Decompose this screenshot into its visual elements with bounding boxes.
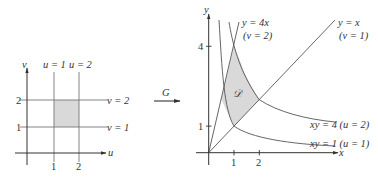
label-v-1: (v = 1) bbox=[339, 30, 369, 42]
label-xy-4: xy = 4 (u = 2) bbox=[309, 119, 370, 131]
x-tick-1: 1 bbox=[231, 157, 236, 168]
figure-canvas: v u 1 2 2 1 u = 1 u = 2 v = 2 v = 1 G bbox=[0, 0, 378, 178]
u-tick-1: 1 bbox=[51, 161, 56, 172]
mapping-arrow: G bbox=[154, 87, 180, 101]
v2-label: v = 2 bbox=[107, 95, 130, 106]
xy-plane: y x 1 2 1 4 𝒟 y = 4x (v = 2) y = x (v = … bbox=[196, 4, 370, 168]
region-d bbox=[221, 46, 259, 126]
y-axis-label: y bbox=[203, 4, 209, 15]
y-tick-1: 1 bbox=[198, 121, 203, 132]
uv-rectangle-region bbox=[54, 100, 79, 127]
label-y-4x: y = 4x bbox=[241, 17, 269, 28]
u1-label: u = 1 bbox=[43, 59, 66, 70]
y-tick-4: 4 bbox=[198, 41, 204, 52]
mapping-label: G bbox=[162, 87, 170, 98]
u-tick-2: 2 bbox=[76, 161, 81, 172]
label-xy-1: xy = 1 (u = 1) bbox=[309, 138, 370, 150]
x-tick-2: 2 bbox=[256, 157, 261, 168]
u-axis-label: u bbox=[108, 147, 113, 158]
v-tick-2: 2 bbox=[16, 95, 21, 106]
label-y-x: y = x bbox=[337, 17, 360, 28]
v-axis-label: v bbox=[22, 59, 27, 70]
v1-label: v = 1 bbox=[107, 122, 129, 133]
u2-label: u = 2 bbox=[69, 59, 93, 70]
v-tick-1: 1 bbox=[16, 122, 21, 133]
uv-plane: v u 1 2 2 1 u = 1 u = 2 v = 2 v = 1 bbox=[15, 59, 130, 172]
label-v-2: (v = 2) bbox=[243, 30, 273, 42]
